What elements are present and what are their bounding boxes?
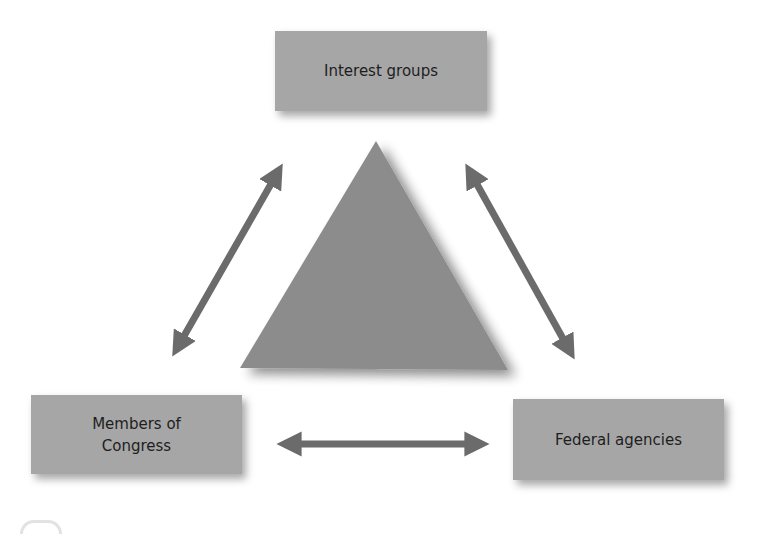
arrow-congress-interest <box>176 170 279 350</box>
page-corner-mark <box>20 520 62 534</box>
arrow-interest-federal <box>469 170 571 353</box>
node-federal-agencies: Federal agencies <box>513 399 724 480</box>
node-label: Members of Congress <box>82 413 192 457</box>
node-members-of-congress: Members of Congress <box>31 395 242 474</box>
node-interest-groups: Interest groups <box>275 31 487 111</box>
center-triangle <box>240 141 508 370</box>
node-label: Federal agencies <box>555 429 682 451</box>
node-label: Interest groups <box>324 60 438 82</box>
